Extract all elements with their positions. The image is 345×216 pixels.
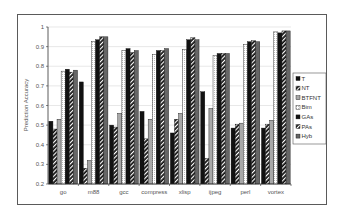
bar-t-compress — [140, 111, 144, 184]
legend-swatch-nt — [296, 86, 300, 90]
bar-pas-gcc — [130, 53, 134, 184]
x-axis-ticks: gom88gcccompressxlispijpegperlvortex — [60, 184, 291, 195]
y-tick-label: 0.7 — [36, 83, 45, 89]
legend-swatch-bim — [296, 105, 300, 109]
bar-btfnt-xlisp — [179, 113, 183, 184]
bar-nt-perl — [235, 124, 239, 184]
x-tick-label: m88 — [88, 189, 100, 195]
y-tick-label: 1 — [41, 24, 45, 30]
bar-bim-xlisp — [183, 50, 187, 184]
bar-pas-perl — [252, 41, 256, 184]
bar-hyb-perl — [256, 42, 260, 184]
bar-t-perl — [231, 128, 235, 184]
legend-label-bim: Bim — [302, 104, 312, 110]
bar-btfnt-vortex — [270, 120, 274, 184]
bar-hyb-compress — [165, 49, 169, 184]
bar-bim-gcc — [122, 51, 126, 184]
bar-bim-vortex — [274, 32, 278, 184]
bar-t-xlisp — [170, 133, 174, 184]
bar-t-ijpeg — [201, 92, 205, 184]
bar-t-go — [49, 121, 53, 184]
legend-swatch-btfnt — [296, 96, 300, 100]
legend-label-btfnt: BTFNT — [302, 95, 322, 101]
bar-pas-compress — [160, 51, 164, 184]
bar-hyb-m88 — [104, 37, 108, 184]
y-axis-ticks: 0.20.30.40.50.60.70.80.91 — [36, 24, 48, 187]
bar-bim-compress — [152, 54, 156, 184]
x-tick-label: vortex — [268, 189, 284, 195]
bar-btfnt-perl — [239, 123, 243, 184]
bar-btfnt-go — [57, 119, 61, 184]
bar-bim-perl — [243, 45, 247, 184]
bar-gas-m88 — [96, 40, 100, 184]
bar-hyb-gcc — [134, 51, 138, 184]
bar-nt-m88 — [83, 168, 87, 184]
y-tick-label: 0.6 — [36, 103, 45, 109]
x-tick-label: gcc — [119, 189, 128, 195]
bar-pas-ijpeg — [221, 53, 225, 184]
bar-t-vortex — [261, 128, 265, 184]
bar-gas-xlisp — [187, 40, 191, 184]
x-tick-label: go — [60, 189, 67, 195]
bar-pas-m88 — [100, 37, 104, 184]
legend-label-gas: GAs — [302, 114, 314, 120]
bar-pas-go — [69, 72, 73, 184]
legend-label-t: T — [302, 76, 306, 82]
x-tick-label: xlisp — [179, 189, 192, 195]
bar-nt-go — [53, 129, 57, 184]
bars — [49, 31, 290, 184]
bar-chart: 0.20.30.40.50.60.70.80.91 gom88gcccompre… — [0, 0, 345, 216]
bar-btfnt-gcc — [118, 113, 122, 184]
bar-hyb-ijpeg — [225, 53, 229, 184]
bar-gas-compress — [156, 51, 160, 184]
y-tick-label: 0.2 — [36, 181, 45, 187]
x-tick-label: compress — [141, 189, 167, 195]
bar-gas-perl — [247, 42, 251, 184]
legend-label-pas: PAs — [302, 124, 313, 130]
bar-hyb-go — [73, 70, 77, 184]
bar-bim-ijpeg — [213, 55, 217, 184]
bar-hyb-xlisp — [195, 40, 199, 184]
bar-t-m88 — [79, 82, 83, 184]
y-tick-label: 0.3 — [36, 161, 45, 167]
bar-btfnt-compress — [148, 119, 152, 184]
bar-gas-go — [65, 69, 69, 184]
legend-swatch-hyb — [296, 134, 300, 138]
legend-label-nt: NT — [302, 85, 310, 91]
legend-label-hyb: Hyb — [302, 133, 313, 139]
y-axis-title: Prediction Accuracy — [23, 79, 29, 132]
legend: TNTBTFNTBimGAsPAsHyb — [293, 73, 326, 144]
y-tick-label: 0.8 — [36, 63, 45, 69]
y-tick-label: 0.4 — [36, 142, 45, 148]
bar-nt-xlisp — [174, 119, 178, 184]
bar-bim-m88 — [92, 42, 96, 184]
bar-bim-go — [61, 71, 65, 184]
bar-pas-vortex — [282, 31, 286, 184]
bar-nt-ijpeg — [205, 158, 209, 184]
x-tick-label: ijpeg — [209, 189, 222, 195]
bar-gas-gcc — [126, 49, 130, 184]
bar-nt-vortex — [266, 124, 270, 184]
bar-nt-compress — [144, 139, 148, 184]
bar-gas-ijpeg — [217, 53, 221, 184]
bar-t-gcc — [110, 125, 114, 184]
y-tick-label: 0.9 — [36, 44, 45, 50]
bar-btfnt-ijpeg — [209, 108, 213, 184]
legend-swatch-gas — [296, 115, 300, 119]
legend-swatch-t — [296, 77, 300, 81]
bar-pas-xlisp — [191, 38, 195, 184]
legend-swatch-pas — [296, 125, 300, 129]
x-tick-label: perl — [240, 189, 250, 195]
bar-hyb-vortex — [286, 31, 290, 184]
bar-btfnt-m88 — [87, 160, 91, 184]
bar-gas-vortex — [278, 33, 282, 184]
bar-nt-gcc — [114, 127, 118, 184]
y-tick-label: 0.5 — [36, 122, 45, 128]
